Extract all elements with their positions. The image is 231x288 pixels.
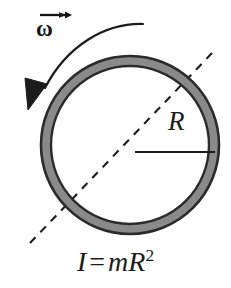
figure-canvas [0, 0, 231, 288]
equation-exponent: 2 [145, 246, 154, 265]
hoop-inner-edge [51, 66, 209, 224]
physics-figure-hoop: ω R I=mR2 [0, 0, 231, 288]
equation-inertia-symbol: I [77, 246, 86, 277]
angular-velocity-arrowhead [25, 78, 47, 110]
equation-equals-operator: = [86, 246, 108, 277]
omega-symbol: ω [36, 17, 53, 40]
hoop-band [46, 61, 214, 229]
radius-label: R [168, 108, 185, 135]
hoop-outer-edge [41, 56, 219, 234]
omega-vector-label: ω [36, 10, 76, 48]
equation-mass-symbol: m [108, 246, 128, 277]
moment-of-inertia-equation: I=mR2 [0, 248, 231, 276]
hoop-ring [41, 56, 219, 234]
equation-radius-symbol: R [128, 246, 145, 277]
